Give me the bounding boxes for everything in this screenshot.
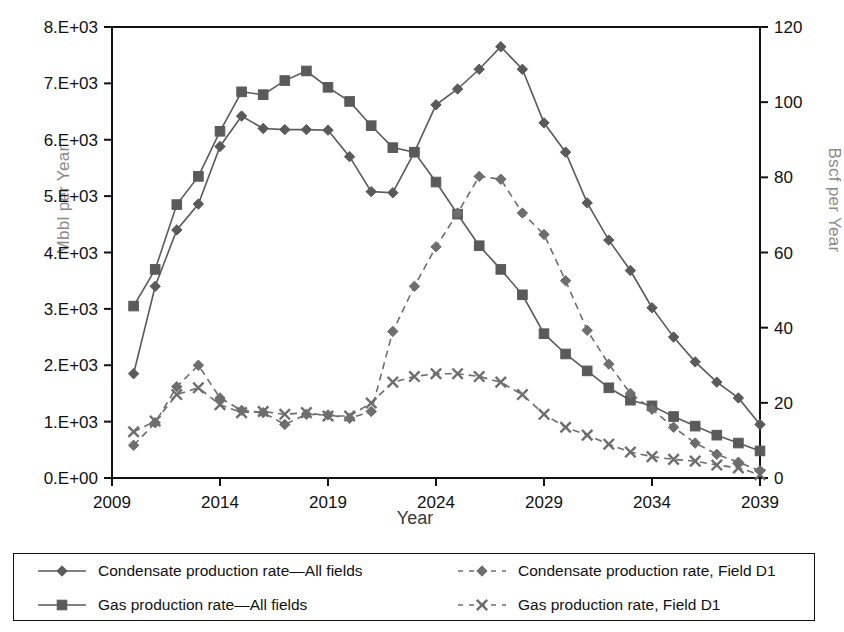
svg-text:100: 100 bbox=[774, 93, 802, 112]
svg-text:2019: 2019 bbox=[309, 493, 347, 512]
legend-key-icon bbox=[36, 598, 88, 612]
legend-item: Gas production rate, Field D1 bbox=[444, 596, 816, 614]
svg-text:7.E+03: 7.E+03 bbox=[44, 74, 98, 93]
svg-text:2034: 2034 bbox=[633, 493, 671, 512]
svg-text:2039: 2039 bbox=[741, 493, 779, 512]
legend-item-label: Condensate production rate—All fields bbox=[98, 562, 363, 580]
svg-text:2014: 2014 bbox=[201, 493, 239, 512]
legend-item-label: Gas production rate—All fields bbox=[98, 596, 307, 614]
svg-text:120: 120 bbox=[774, 18, 802, 37]
svg-text:5.E+03: 5.E+03 bbox=[44, 187, 98, 206]
production-rate-chart: Mbbl per Year Bscf per Year Year 0.E+001… bbox=[0, 0, 830, 540]
legend-item: Condensate production rate—All fields bbox=[14, 562, 444, 580]
legend-grid: Condensate production rate—All fields Co… bbox=[14, 554, 814, 620]
svg-text:4.E+03: 4.E+03 bbox=[44, 244, 98, 263]
chart-legend: Condensate production rate—All fields Co… bbox=[13, 553, 815, 621]
legend-key-icon bbox=[456, 564, 508, 578]
legend-item: Condensate production rate, Field D1 bbox=[444, 562, 816, 580]
svg-text:2029: 2029 bbox=[525, 493, 563, 512]
legend-key-icon bbox=[456, 598, 508, 612]
svg-text:2024: 2024 bbox=[417, 493, 455, 512]
svg-text:3.E+03: 3.E+03 bbox=[44, 300, 98, 319]
svg-text:0.E+00: 0.E+00 bbox=[44, 469, 98, 488]
plot-area: 0.E+001.E+032.E+033.E+034.E+035.E+036.E+… bbox=[0, 0, 830, 540]
svg-text:2.E+03: 2.E+03 bbox=[44, 356, 98, 375]
svg-text:1.E+03: 1.E+03 bbox=[44, 413, 98, 432]
svg-text:60: 60 bbox=[774, 244, 793, 263]
svg-text:6.E+03: 6.E+03 bbox=[44, 131, 98, 150]
svg-text:0: 0 bbox=[774, 469, 783, 488]
svg-text:8.E+03: 8.E+03 bbox=[44, 18, 98, 37]
legend-key-icon bbox=[36, 564, 88, 578]
svg-text:80: 80 bbox=[774, 168, 793, 187]
legend-item-label: Gas production rate, Field D1 bbox=[518, 596, 720, 614]
svg-text:20: 20 bbox=[774, 394, 793, 413]
svg-text:2009: 2009 bbox=[93, 493, 131, 512]
legend-item-label: Condensate production rate, Field D1 bbox=[518, 562, 776, 580]
svg-text:40: 40 bbox=[774, 319, 793, 338]
legend-item: Gas production rate—All fields bbox=[14, 596, 444, 614]
